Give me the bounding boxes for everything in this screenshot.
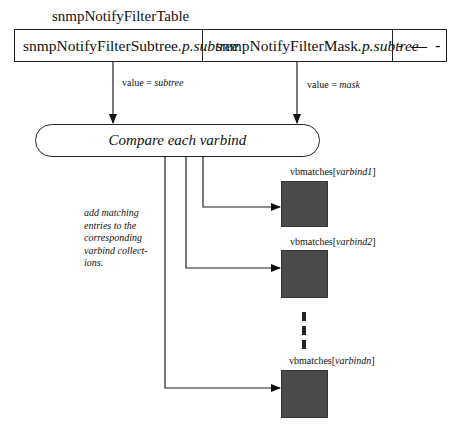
vbmatches-box-2 (281, 250, 328, 298)
subtree-edge-label: value = subtree (122, 77, 183, 88)
output-label-n: vbmatches[varbindn] (289, 355, 375, 366)
compare-process: Compare each varbind (35, 124, 320, 157)
vbmatches-box-n (281, 370, 328, 418)
vbmatches-box-1 (281, 181, 328, 227)
connector-arrows (0, 0, 458, 431)
mask-edge-label: value = mask (307, 79, 360, 90)
output-label-1: vbmatches[varbind1] (290, 166, 376, 177)
annotation-note: add matching entries to the correspondin… (84, 207, 164, 270)
output-label-2: vbmatches[varbind2] (290, 236, 376, 247)
